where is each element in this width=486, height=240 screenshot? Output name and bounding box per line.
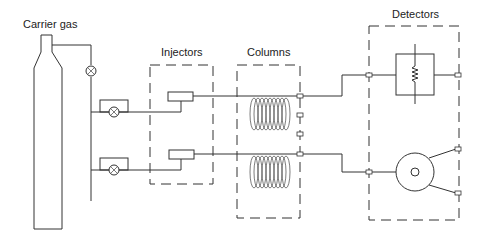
upper-detector-inlet	[366, 73, 372, 77]
upper-branch-valve-icon	[109, 107, 119, 117]
lower-injector-icon	[169, 150, 194, 159]
lower-detector-line	[303, 154, 366, 172]
lower-branch-valve-icon	[109, 165, 119, 175]
tcd-detector-icon	[372, 44, 461, 104]
columns-group-box	[237, 65, 300, 218]
main-valve-icon	[86, 66, 96, 76]
lower-column-coil-icon	[250, 156, 290, 188]
lower-branch	[91, 157, 181, 170]
upper-column-coil-icon	[250, 98, 290, 130]
supply-line	[52, 45, 91, 201]
upper-detector-line	[303, 75, 366, 96]
fid-detector-icon	[372, 147, 461, 195]
lower-detector-inlet	[366, 170, 372, 174]
gc-schematic	[0, 0, 486, 240]
upper-branch	[91, 100, 181, 112]
upper-injector-icon	[168, 92, 193, 101]
gas-cylinder-icon	[34, 35, 62, 229]
